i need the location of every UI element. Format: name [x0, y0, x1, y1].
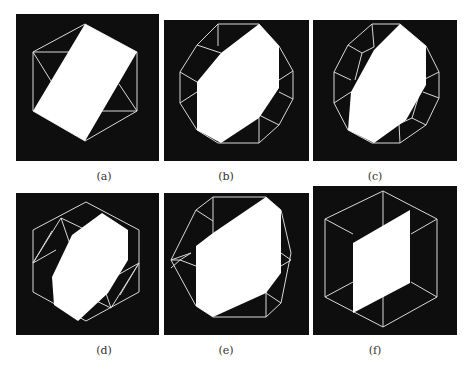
panel-c	[313, 20, 457, 161]
dodecagon-diagram-c	[313, 20, 457, 161]
caption-f: (f)	[345, 344, 405, 357]
hexagon-cube-diagram-f	[313, 186, 457, 335]
panel-a	[16, 14, 159, 161]
caption-b: (b)	[196, 170, 256, 183]
caption-c: (c)	[345, 170, 405, 183]
caption-a: (a)	[74, 170, 134, 183]
panel-b	[164, 20, 309, 161]
panel-d	[16, 193, 159, 335]
panel-f	[313, 186, 457, 335]
hexagon-diagram-a	[16, 14, 159, 161]
panel-e	[164, 193, 309, 335]
dodecagon-diagram-b	[164, 20, 309, 161]
octagon-diagram-e	[164, 193, 309, 335]
caption-d: (d)	[74, 344, 134, 357]
hexagon-diagram-d	[16, 193, 159, 335]
caption-e: (e)	[196, 344, 256, 357]
